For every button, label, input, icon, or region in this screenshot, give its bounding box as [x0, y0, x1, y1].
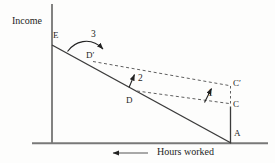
dashed-line-dprime-cprime [93, 62, 229, 86]
step-label-2: 2 [138, 74, 143, 84]
y-axis-label: Income [12, 16, 42, 26]
point-label-c: C [233, 100, 239, 109]
income-hours-diagram: Income Hours worked E D′ D C′ C A 1 2 3 [0, 0, 275, 163]
point-label-d-prime: D′ [86, 51, 94, 60]
point-label-d: D [126, 96, 133, 105]
step-label-3: 3 [91, 30, 96, 40]
point-label-a: A [234, 129, 241, 138]
step-label-1: 1 [208, 89, 213, 99]
point-label-e: E [53, 31, 59, 40]
budget-line-e-a [52, 45, 231, 143]
point-label-c-prime: C′ [233, 79, 241, 88]
dashed-line-d-c [137, 91, 229, 104]
x-axis-label: Hours worked [157, 147, 214, 157]
arrow-2-icon [129, 75, 135, 88]
